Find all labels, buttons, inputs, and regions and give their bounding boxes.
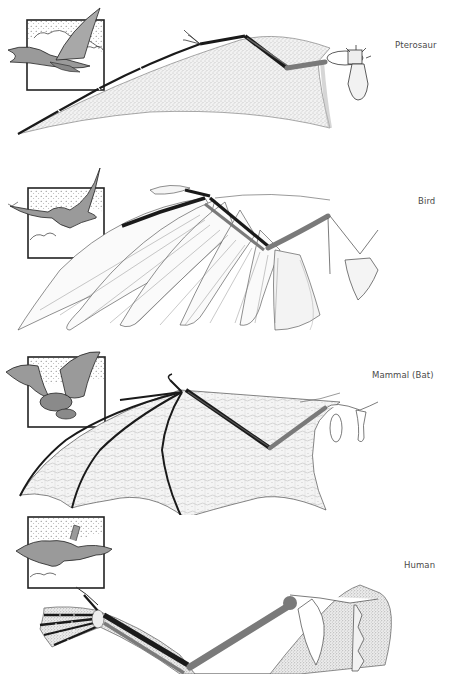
human-inset xyxy=(16,517,112,588)
human-humerus xyxy=(190,605,290,667)
panel-bird: Bird xyxy=(0,160,453,340)
panel-bat: Mammal (Bat) xyxy=(0,340,453,515)
panel-human: Human xyxy=(0,515,453,674)
label-human: Human xyxy=(404,560,435,570)
pterosaur-shoulder-girdle xyxy=(327,45,371,100)
bird-humerus xyxy=(268,216,328,248)
bird-wing-illustration xyxy=(0,160,453,340)
label-bat: Mammal (Bat) xyxy=(372,370,434,380)
pterosaur-inset xyxy=(8,8,104,90)
pterosaur-wing-illustration xyxy=(0,0,453,160)
human-carpals xyxy=(92,610,104,628)
bird-shoulder-girdle xyxy=(328,216,378,300)
panel-pterosaur: Pterosaur xyxy=(0,0,453,160)
human-forearm xyxy=(104,615,188,665)
bat-shoulder-girdle xyxy=(326,402,378,442)
label-bird: Bird xyxy=(418,196,435,206)
pterosaur-claws xyxy=(183,30,200,44)
bat-wing-illustration xyxy=(0,340,453,515)
bat-inset xyxy=(6,352,105,427)
human-arm-illustration xyxy=(0,515,453,674)
label-pterosaur: Pterosaur xyxy=(395,40,437,50)
